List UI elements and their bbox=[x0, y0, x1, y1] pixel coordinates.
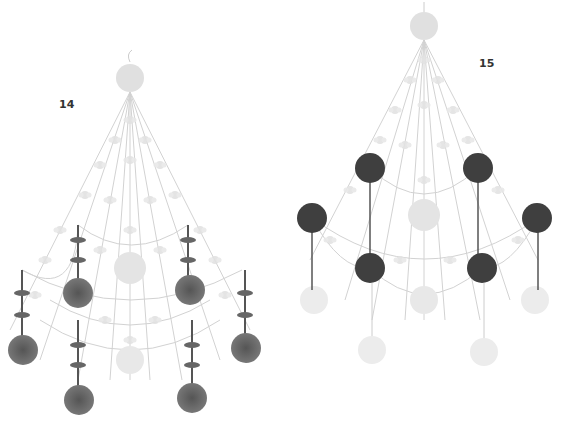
chandelier-14 bbox=[8, 50, 261, 415]
chandelier-15 bbox=[297, 2, 552, 366]
chandelier-illustrations bbox=[0, 0, 572, 435]
